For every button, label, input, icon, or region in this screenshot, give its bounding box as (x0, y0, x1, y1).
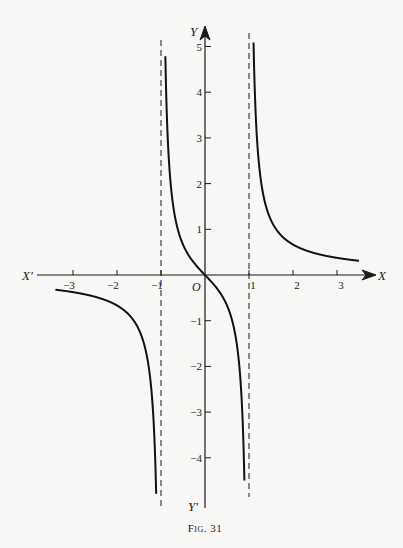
x-tick-label: −2 (107, 279, 119, 291)
origin-label: O (192, 280, 201, 294)
y-tick-label: −4 (190, 452, 202, 464)
x-tick-label: −3 (63, 279, 75, 291)
y-tick-label: 5 (197, 41, 203, 53)
y-tick-label: 3 (197, 132, 203, 144)
y-tick-label: −2 (190, 360, 202, 372)
tick-labels: −3−2−112354321−1−2−3−4 (63, 41, 344, 464)
y-tick-label: 1 (197, 223, 203, 235)
y-tick-label: 2 (197, 178, 203, 190)
y-axis-label: Y (190, 24, 199, 39)
y-tick-label: −1 (190, 315, 202, 327)
x-axis-label: X (377, 268, 387, 283)
curve-branches (55, 43, 359, 494)
left-branch (55, 290, 156, 494)
y-tick-label: −3 (190, 406, 202, 418)
axes (37, 30, 374, 508)
x-tick-label: 2 (294, 279, 300, 291)
x-tick-label: −1 (151, 279, 163, 291)
y-tick-label: 4 (197, 86, 203, 98)
y-axis-neg-label: Y′ (188, 499, 198, 514)
right-branch (254, 43, 359, 261)
x-tick-label: 3 (338, 279, 344, 291)
function-plot: −3−2−112354321−1−2−3−4 X X′ Y Y′ O Fig. … (0, 0, 403, 548)
x-axis-neg-label: X′ (21, 268, 33, 283)
x-tick-label: 1 (250, 279, 256, 291)
figure-caption: Fig. 31 (188, 522, 223, 534)
